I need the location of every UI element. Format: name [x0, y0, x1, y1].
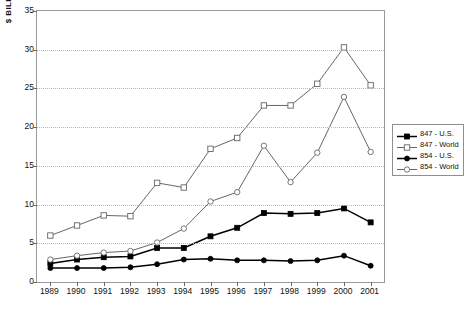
data-point-marker	[288, 259, 293, 264]
legend-item-label: 847 - World	[418, 140, 459, 149]
legend: 847 - U.S.847 - World854 - U.S.854 - Wor…	[392, 124, 464, 176]
y-tick-mark	[33, 166, 37, 167]
data-point-marker	[154, 180, 159, 185]
data-point-marker	[128, 254, 133, 259]
y-tick-mark	[33, 243, 37, 244]
data-point-marker	[234, 189, 239, 194]
data-point-marker	[48, 257, 53, 262]
data-point-marker	[181, 257, 186, 262]
legend-item-label: 847 - U.S.	[418, 129, 454, 138]
x-tick-label: 2001	[350, 286, 390, 296]
data-point-marker	[128, 248, 133, 253]
legend-item-847-world[interactable]: 847 - World	[396, 139, 459, 150]
gridline	[37, 166, 384, 167]
y-tick-label: 30	[6, 44, 34, 54]
data-point-marker	[128, 213, 133, 218]
data-point-marker	[181, 226, 186, 231]
data-point-marker	[208, 146, 213, 151]
data-point-marker	[208, 234, 213, 239]
data-point-marker	[101, 266, 106, 271]
y-tick-label: 35	[6, 5, 34, 15]
x-axis: 1989199019911992199319941995199619971998…	[36, 286, 385, 306]
data-point-marker	[315, 150, 320, 155]
data-point-marker	[74, 223, 79, 228]
gridline	[37, 127, 384, 128]
y-tick-label: 0	[6, 276, 34, 286]
y-tick-mark	[33, 127, 37, 128]
data-point-marker	[288, 179, 293, 184]
data-point-marker	[288, 211, 293, 216]
data-point-marker	[235, 258, 240, 263]
series-layer	[37, 11, 384, 282]
legend-item-label: 854 - World	[418, 162, 459, 171]
data-point-marker	[404, 167, 409, 172]
y-tick-mark	[33, 205, 37, 206]
data-point-marker	[368, 220, 373, 225]
y-axis: 05101520253035	[0, 10, 34, 283]
data-point-marker	[315, 258, 320, 263]
data-point-marker	[341, 206, 346, 211]
data-point-marker	[101, 250, 106, 255]
legend-item-label: 854 - U.S.	[418, 151, 454, 160]
data-point-marker	[181, 245, 186, 250]
data-point-marker	[368, 83, 373, 88]
data-point-marker	[75, 266, 80, 271]
y-tick-label: 15	[6, 160, 34, 170]
data-point-marker	[368, 149, 373, 154]
y-tick-label: 5	[6, 237, 34, 247]
series-854-u-s	[48, 253, 373, 270]
legend-marker-icon	[396, 128, 418, 139]
gridline	[37, 50, 384, 51]
gridline	[37, 205, 384, 206]
y-tick-label: 20	[6, 121, 34, 131]
data-point-marker	[155, 262, 160, 267]
data-point-marker	[208, 199, 213, 204]
data-point-marker	[181, 185, 186, 190]
series-847-world	[48, 45, 374, 239]
data-point-marker	[315, 81, 320, 86]
data-point-marker	[261, 103, 266, 108]
data-point-marker	[74, 253, 79, 258]
data-point-marker	[368, 263, 373, 268]
data-point-marker	[261, 211, 266, 216]
data-point-marker	[48, 233, 53, 238]
data-point-marker	[234, 135, 239, 140]
data-point-marker	[261, 258, 266, 263]
y-tick-mark	[33, 50, 37, 51]
data-point-marker	[341, 253, 346, 258]
plot-area	[36, 10, 385, 283]
data-point-marker	[48, 266, 53, 271]
data-point-marker	[155, 245, 160, 250]
legend-item-854-world[interactable]: 854 - World	[396, 161, 459, 172]
legend-item-854-u-s[interactable]: 854 - U.S.	[396, 150, 459, 161]
legend-item-847-u-s[interactable]: 847 - U.S.	[396, 128, 459, 139]
gridline	[37, 243, 384, 244]
gridline	[37, 88, 384, 89]
y-tick-label: 10	[6, 199, 34, 209]
data-point-marker	[101, 213, 106, 218]
data-point-marker	[235, 225, 240, 230]
data-point-marker	[315, 211, 320, 216]
data-point-marker	[261, 143, 266, 148]
y-tick-mark	[33, 282, 37, 283]
legend-marker-icon	[396, 150, 418, 161]
legend-marker-icon	[396, 161, 418, 172]
y-tick-label: 25	[6, 82, 34, 92]
legend-marker-icon	[396, 139, 418, 150]
data-point-marker	[288, 103, 293, 108]
data-point-marker	[128, 265, 133, 270]
data-point-marker	[341, 94, 346, 99]
y-tick-mark	[33, 11, 37, 12]
data-point-marker	[208, 256, 213, 261]
y-tick-mark	[33, 88, 37, 89]
